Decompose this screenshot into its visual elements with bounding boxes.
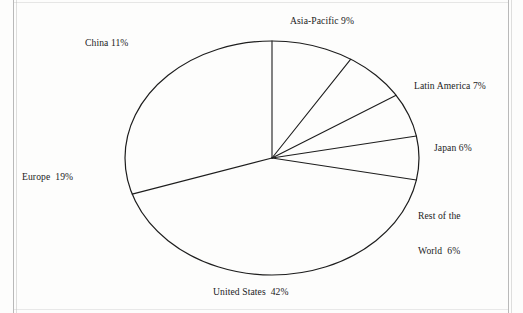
slice-label-rest-of-world: Rest of the World 6% — [418, 187, 461, 280]
slice-label-latin-america: Latin America 7% — [414, 80, 486, 92]
slice-label-rest-of-world-line2: World 6% — [418, 245, 461, 257]
chart-page: Asia-Pacific 9% China 11% Latin America … — [0, 0, 523, 313]
pie-spoke-latin-america — [272, 59, 351, 158]
pie-spoke-europe — [132, 158, 272, 194]
pie-spokes — [132, 41, 416, 194]
pie-spoke-united-states — [272, 158, 416, 180]
slice-label-china: China 11% — [85, 37, 128, 49]
slice-label-rest-of-world-line1: Rest of the — [418, 210, 461, 222]
slice-label-asia-pacific: Asia-Pacific 9% — [290, 15, 354, 27]
slice-label-japan: Japan 6% — [434, 142, 472, 154]
slice-label-united-states: United States 42% — [213, 286, 289, 298]
slice-label-europe: Europe 19% — [22, 171, 73, 183]
